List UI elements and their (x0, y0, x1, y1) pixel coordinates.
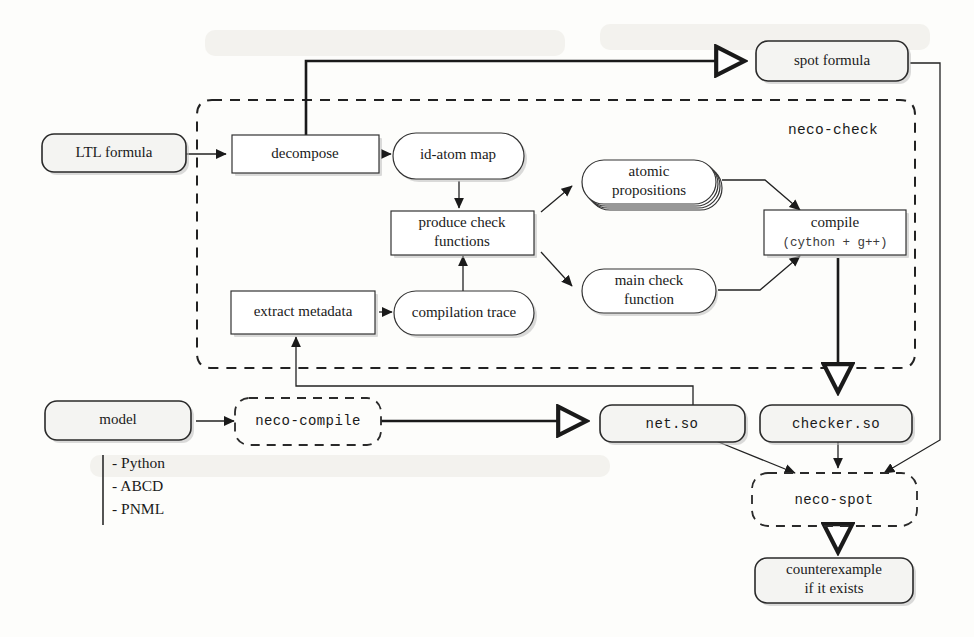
node-atomic-propositions[interactable]: atomic propositions (582, 160, 722, 210)
node-label-compile-line1: compile (811, 214, 860, 230)
edge-atomic-propositions-to-compile (722, 180, 800, 210)
model-formats-list: - Python - ABCD - PNML (103, 454, 165, 525)
node-spot-formula[interactable]: spot formula (756, 41, 911, 84)
node-model[interactable]: model (45, 401, 194, 443)
node-label-extract-metadata: extract metadata (254, 303, 353, 319)
edge-produce-check-to-atomic-propositions (541, 186, 572, 212)
node-label-atomic-propositions-line1: atomic (629, 163, 670, 179)
node-label-id-atom-map: id-atom map (420, 146, 496, 162)
node-label-ltl-formula: LTL formula (76, 144, 153, 160)
model-format-item-python: - Python (112, 454, 165, 471)
diagram-canvas: neco-check (0, 0, 974, 637)
node-label-counterexample-line1: counterexample (786, 561, 882, 577)
node-label-neco-compile: neco-compile (255, 413, 361, 429)
model-format-item-abcd: - ABCD (112, 477, 163, 494)
node-label-produce-check-line2: functions (434, 233, 490, 249)
node-net-so[interactable]: net.so (600, 405, 748, 445)
node-label-net-so: net.so (646, 416, 699, 432)
node-extract-metadata[interactable]: extract metadata (231, 291, 378, 337)
node-label-spot-formula: spot formula (794, 52, 871, 68)
edge-produce-check-to-main-check (541, 252, 572, 286)
edge-decompose-to-spot-formula (306, 61, 744, 135)
node-label-counterexample-line2: if it exists (804, 580, 863, 596)
node-label-compilation-trace: compilation trace (412, 304, 517, 320)
node-produce-check-functions[interactable]: produce check functions (391, 211, 537, 258)
node-main-check-function[interactable]: main check function (582, 269, 718, 316)
region-label-neco-check: neco-check (788, 122, 878, 138)
edge-net-so-to-neco-spot (716, 441, 795, 473)
flowchart-svg: neco-check (0, 0, 974, 637)
model-format-item-pnml: - PNML (112, 500, 164, 517)
node-counterexample[interactable]: counterexample if it exists (755, 558, 916, 606)
node-id-atom-map[interactable]: id-atom map (393, 133, 527, 182)
node-compilation-trace[interactable]: compilation trace (394, 291, 537, 338)
node-compile[interactable]: compile (cython + g++) (764, 210, 909, 258)
node-neco-spot[interactable]: neco-spot (752, 473, 917, 526)
node-label-model: model (99, 411, 137, 427)
node-label-decompose: decompose (271, 145, 339, 161)
node-label-produce-check-line1: produce check (418, 214, 506, 230)
node-label-checker-so: checker.so (792, 416, 880, 432)
node-label-compile-line2: (cython + g++) (782, 236, 887, 250)
node-label-main-check-line2: function (624, 291, 674, 307)
node-decompose[interactable]: decompose (232, 135, 382, 176)
edge-net-so-to-extract-metadata (296, 337, 693, 405)
edge-main-check-to-compile (718, 256, 800, 290)
node-checker-so[interactable]: checker.so (760, 405, 915, 445)
node-label-main-check-line1: main check (615, 272, 684, 288)
node-ltl-formula[interactable]: LTL formula (42, 134, 189, 175)
node-label-neco-spot: neco-spot (794, 492, 873, 508)
node-neco-compile[interactable]: neco-compile (235, 398, 381, 445)
node-label-atomic-propositions-line2: propositions (612, 182, 686, 198)
